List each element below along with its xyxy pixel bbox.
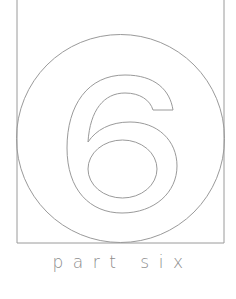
- numeral-six-icon: [67, 75, 177, 213]
- frame-lines: [17, 0, 224, 243]
- circle-outline: [17, 35, 225, 243]
- part-label: part six: [0, 252, 236, 272]
